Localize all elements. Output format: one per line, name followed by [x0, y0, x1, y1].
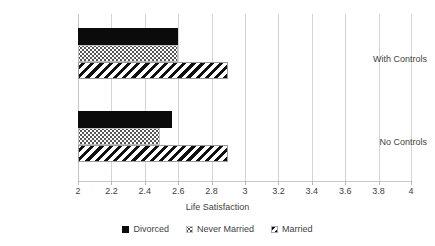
gridline-3-6	[345, 14, 346, 181]
bar-no-controls-divorced	[78, 111, 172, 128]
x-tick-label-3-6: 3.6	[339, 186, 352, 196]
x-tick-mark-3-2	[278, 181, 279, 185]
x-tick-mark-3-6	[345, 181, 346, 185]
legend-entry-married: Married	[271, 224, 313, 234]
legend-entry-never-married: Never Married	[186, 224, 254, 234]
x-tick-mark-3	[245, 181, 246, 185]
chart-legend: Divorced Never Married Married	[0, 224, 435, 234]
x-tick-mark-4	[411, 181, 412, 185]
gridline-3-8	[379, 14, 380, 181]
x-tick-mark-3-4	[312, 181, 313, 185]
legend-label-married: Married	[282, 224, 313, 234]
x-tick-label-2: 2	[75, 186, 80, 196]
x-tick-label-3-2: 3.2	[272, 186, 285, 196]
x-tick-mark-2-6	[178, 181, 179, 185]
category-label-no-controls: No Controls	[357, 137, 427, 147]
legend-entry-divorced: Divorced	[122, 224, 169, 234]
gridline-4	[411, 14, 412, 181]
category-label-with-controls: With Controls	[357, 54, 427, 64]
x-tick-label-2-8: 2.8	[205, 186, 218, 196]
solid-black-swatch-icon	[122, 226, 129, 233]
plot-area	[78, 14, 412, 181]
x-tick-label-2-4: 2.4	[139, 186, 152, 196]
x-tick-mark-2-8	[212, 181, 213, 185]
legend-label-never-married: Never Married	[197, 224, 254, 234]
life-satisfaction-bar-chart: With Controls No Controls 2 2.2 2.4 2.6 …	[0, 0, 435, 246]
legend-label-divorced: Divorced	[133, 224, 169, 234]
x-axis-title: Life Satisfaction	[0, 202, 435, 212]
bar-with-controls-divorced	[78, 28, 178, 45]
bar-with-controls-never-married	[78, 45, 178, 62]
x-tick-label-2-6: 2.6	[172, 186, 185, 196]
hatched-swatch-icon	[271, 226, 278, 233]
x-tick-mark-2-2	[111, 181, 112, 185]
x-tick-label-4: 4	[408, 186, 413, 196]
bar-with-controls-married	[78, 62, 228, 79]
x-tick-label-3-4: 3.4	[306, 186, 319, 196]
x-tick-mark-2-4	[145, 181, 146, 185]
gridline-3-2	[278, 14, 279, 181]
bar-no-controls-married	[78, 145, 228, 162]
x-tick-mark-3-8	[379, 181, 380, 185]
x-tick-mark-2	[78, 181, 79, 185]
x-tick-label-3-8: 3.8	[372, 186, 385, 196]
gridline-3-4	[312, 14, 313, 181]
x-tick-label-3: 3	[242, 186, 247, 196]
gridline-3	[245, 14, 246, 181]
dotted-swatch-icon	[186, 226, 193, 233]
x-tick-label-2-2: 2.2	[105, 186, 118, 196]
bar-no-controls-never-married	[78, 128, 160, 145]
